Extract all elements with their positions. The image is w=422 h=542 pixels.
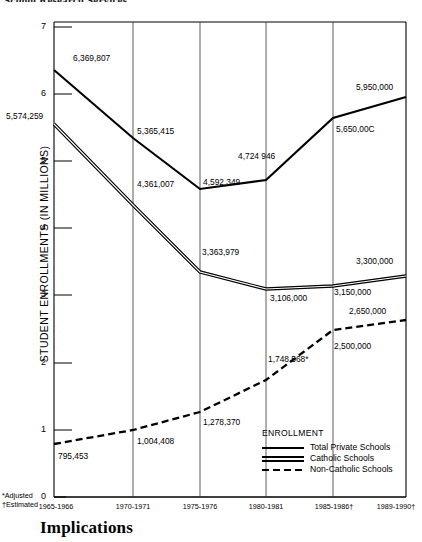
y-tick-5: 5 [30,156,46,165]
point-label-catholic-1965: 5,574,259 [6,112,43,121]
point-label-catholic-1989: 3,300,000 [356,257,393,266]
x-tick-1980-1981: 1980-1981 [238,503,294,511]
x-tick-1985-1986: 1985-1986† [305,503,363,511]
footnote-estimated: †Estimated [2,500,38,509]
legend-title: ENROLLMENT [262,428,393,439]
legend-label-total-private: Total Private Schools [310,442,390,453]
point-label-noncath-1989: 2,650,000 [349,307,386,316]
y-tick-4: 4 [30,223,46,232]
legend-swatch-double-icon [262,454,304,463]
point-label-noncath-1985: 2,500,000 [334,342,371,351]
section-heading-implications: Implications [40,518,133,538]
y-tick-7: 7 [30,22,46,31]
legend-label-catholic: Catholic Schools [310,453,374,464]
y-tick-3: 3 [30,290,46,299]
point-label-total-1985: 5,650,00C [336,125,375,134]
legend-item-catholic: Catholic Schools [262,453,393,464]
x-tick-1970-1971: 1970-1971 [105,503,161,511]
point-label-catholic-1970: 4,361,007 [137,180,174,189]
x-tick-1989-1990: 1989-1990† [368,503,422,511]
point-label-total-1970: 5,365,415 [137,127,174,136]
point-label-noncath-1965: 795,453 [58,452,88,461]
footnote-adjusted: *Adjusted [2,491,38,500]
chart-legend: ENROLLMENT Total Private Schools Catholi… [262,428,393,475]
point-label-total-1975: 4,592,349 [203,178,240,187]
x-tick-1975-1976: 1975-1976 [172,503,228,511]
chart-page: School Research Services [0,0,422,542]
point-label-total-1989: 5,950,000 [356,83,393,92]
point-label-noncath-1975: 1,278,370 [203,418,240,427]
y-tick-1: 1 [30,425,46,434]
point-label-noncath-1980: 1,748.568* [268,355,309,364]
point-label-catholic-1980: 3,106,000 [270,294,307,303]
point-label-catholic-1985: 3,150,000 [334,288,371,297]
series-line-catholic [54,124,406,289]
point-label-total-1980: 4,724 946 [238,152,275,161]
legend-swatch-dashed-icon [262,465,304,474]
legend-label-non-catholic: Non-Catholic Schools [310,464,393,475]
footnotes: *Adjusted †Estimated [2,491,38,509]
point-label-noncath-1970: 1,004,408 [137,437,174,446]
point-label-catholic-1975: 3,363,979 [202,248,239,257]
y-tick-marks [54,27,72,497]
y-tick-2: 2 [30,358,46,367]
legend-item-non-catholic: Non-Catholic Schools [262,464,393,475]
y-tick-6: 6 [30,89,46,98]
legend-swatch-solid-icon [262,443,304,452]
legend-item-total-private: Total Private Schools [262,442,393,453]
point-label-total-1965: 6,369,807 [73,54,110,63]
